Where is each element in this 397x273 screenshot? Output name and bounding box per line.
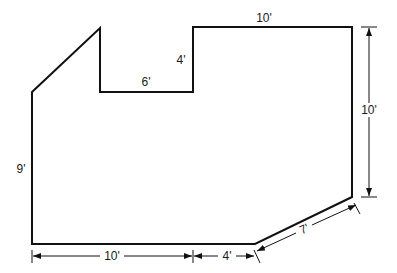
notch-depth-label: 4' xyxy=(177,53,186,67)
left-height-label: 9' xyxy=(17,162,26,176)
room-outline xyxy=(32,27,352,244)
bottom-mid-width-label: 4' xyxy=(223,249,232,263)
floor-plan-diagram: 10' 4' 6' 9' 10' 10' 4' 7' xyxy=(0,0,397,273)
bottom-left-width-label: 10' xyxy=(104,249,120,263)
diagonal-length-label: 7' xyxy=(297,221,311,237)
diagonal-length-dimension xyxy=(257,203,360,251)
notch-width-label: 6' xyxy=(142,75,151,89)
right-height-label: 10' xyxy=(361,103,377,117)
top-right-width-label: 10' xyxy=(256,11,272,25)
